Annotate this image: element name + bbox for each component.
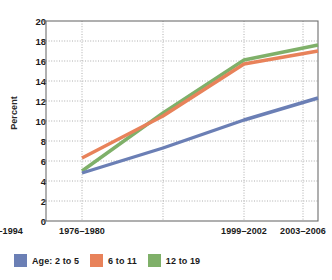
gridlines bbox=[46, 21, 318, 221]
chart-legend: Age: 2 to 5 6 to 11 12 to 19 bbox=[14, 254, 211, 267]
legend-swatch-icon-green bbox=[148, 254, 161, 267]
plot-area bbox=[0, 0, 332, 280]
legend-item-age-2-to-5: Age: 2 to 5 bbox=[14, 254, 79, 267]
chart-figure: Percent 20 18 16 14 12 10 8 6 4 2 0 1976… bbox=[0, 0, 332, 280]
legend-label-0: Age: 2 to 5 bbox=[32, 256, 79, 266]
legend-label-1: 6 to 11 bbox=[108, 256, 137, 266]
legend-label-2: 12 to 19 bbox=[166, 256, 200, 266]
series-lines bbox=[82, 45, 318, 173]
axis-frame bbox=[43, 21, 318, 221]
series-line bbox=[82, 51, 318, 158]
x-tick-3: 2003–2006 bbox=[280, 226, 326, 236]
x-tick-0: 1976–1980 bbox=[59, 226, 105, 236]
x-tick-1: 1988–1994 bbox=[0, 226, 23, 236]
legend-item-12-to-19: 12 to 19 bbox=[148, 254, 200, 267]
legend-swatch-icon-orange bbox=[90, 254, 103, 267]
legend-swatch-icon-blue bbox=[14, 254, 27, 267]
series-line bbox=[82, 98, 318, 173]
x-tick-2: 1999–2002 bbox=[221, 226, 267, 236]
legend-item-6-to-11: 6 to 11 bbox=[90, 254, 137, 267]
